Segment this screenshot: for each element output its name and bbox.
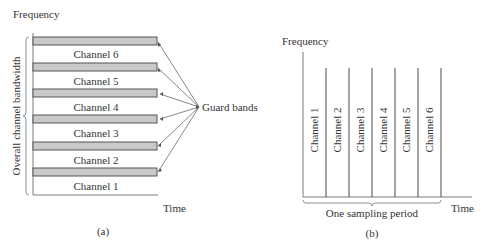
channel-label: Channel 6 [74, 48, 119, 60]
channel-label: Channel 1 [74, 180, 119, 192]
guard-band [33, 89, 157, 97]
panel-a-time-label: Time [163, 202, 186, 214]
guard-band [33, 168, 157, 176]
channel-label: Channel 5 [74, 75, 119, 87]
panel-a-fdm: Frequency Channel 6 Channel 5 Channel 4 … [10, 8, 258, 238]
channel-label: Channel 4 [74, 101, 119, 113]
multiplexing-diagram: Frequency Channel 6 Channel 5 Channel 4 … [0, 0, 483, 245]
panel-b-frequency-label: Frequency [282, 35, 329, 47]
channel-label: Channel 6 [423, 107, 435, 152]
channel-label: Channel 4 [377, 107, 389, 152]
panel-a-frequency-label: Frequency [13, 8, 60, 20]
overall-bandwidth-label: Overall channel bandwidth [10, 56, 22, 176]
sampling-period-label: One sampling period [326, 207, 419, 219]
channel-label: Channel 2 [74, 154, 119, 166]
channel-label: Channel 3 [354, 107, 366, 152]
bandwidth-brace-icon [23, 37, 29, 195]
sampling-period-brace-icon [303, 200, 441, 206]
guard-band [33, 63, 157, 71]
panel-b-time-label: Time [451, 202, 474, 214]
panel-b-tdm: Frequency Channel 1 Channel 2 Channel 3 … [282, 35, 474, 240]
guard-band-arrows [158, 42, 199, 172]
guard-band [33, 115, 157, 123]
channel-label: Channel 3 [74, 127, 119, 139]
guard-band [33, 142, 157, 150]
channel-label: Channel 5 [400, 107, 412, 152]
panel-b-caption: (b) [366, 227, 379, 240]
channel-label: Channel 2 [331, 108, 343, 153]
guard-bands-label: Guard bands [202, 101, 258, 113]
guard-band [33, 37, 157, 45]
panel-a-caption: (a) [97, 225, 110, 238]
channel-label: Channel 1 [308, 108, 320, 153]
